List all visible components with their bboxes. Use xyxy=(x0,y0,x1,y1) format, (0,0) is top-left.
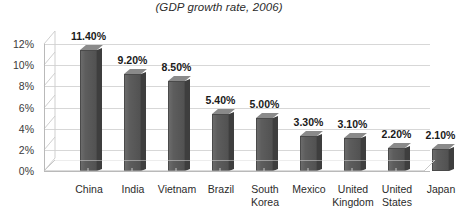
bar-side-face xyxy=(317,134,322,171)
bar-value-label: 9.20% xyxy=(118,54,148,66)
bar-value-label: 8.50% xyxy=(162,61,192,73)
bar-front-face xyxy=(212,114,229,171)
y-axis-depth-wall xyxy=(38,30,56,180)
y-axis-tick-labels: 12%10%8%6%4%2%0% xyxy=(0,30,34,180)
bar-side-face xyxy=(97,48,102,171)
y-axis-tick-label: 2% xyxy=(0,144,34,156)
bar-value-label: 3.10% xyxy=(338,118,368,130)
bar-value-label: 3.30% xyxy=(294,116,324,128)
y-axis-tick-label: 4% xyxy=(0,123,34,135)
x-axis-category-labels: ChinaIndiaVietnamBrazilSouth KoreaMexico… xyxy=(38,183,430,217)
bar-side-face xyxy=(185,79,190,171)
bar-value-label: 5.00% xyxy=(250,98,280,110)
y-axis-line xyxy=(44,44,45,171)
y-axis-tick-label: 6% xyxy=(0,102,34,114)
bar-front-face xyxy=(168,81,185,171)
bar-front-face xyxy=(300,136,317,171)
bar-front-face xyxy=(432,149,449,171)
bar-side-face xyxy=(361,136,366,171)
plot-area: 11.40%9.20%8.50%5.40%5.00%3.30%3.10%2.20… xyxy=(38,30,430,180)
bar-front-face xyxy=(388,148,405,171)
bar-value-label: 2.10% xyxy=(426,129,456,141)
bar-side-face xyxy=(141,72,146,171)
bar-side-face xyxy=(273,116,278,171)
bar-front-face xyxy=(256,118,273,171)
bar-side-face xyxy=(229,112,234,171)
y-axis-tick-label: 0% xyxy=(0,165,34,177)
bar-value-label: 5.40% xyxy=(206,94,236,106)
bar-value-label: 11.40% xyxy=(71,30,106,42)
chart-title: (GDP growth rate, 2006) xyxy=(0,1,438,13)
bar-front-face xyxy=(124,74,141,171)
bar-value-label: 2.20% xyxy=(382,128,412,140)
bar-front-face xyxy=(80,50,97,171)
x-axis-line xyxy=(44,171,430,172)
y-axis-tick-label: 8% xyxy=(0,80,34,92)
bar-side-face xyxy=(449,147,454,171)
x-axis-category-label: Japan xyxy=(415,183,460,196)
y-axis-tick-label: 10% xyxy=(0,59,34,71)
y-axis-tick-label: 12% xyxy=(0,38,34,50)
bar-side-face xyxy=(405,146,410,171)
bar-front-face xyxy=(344,138,361,171)
